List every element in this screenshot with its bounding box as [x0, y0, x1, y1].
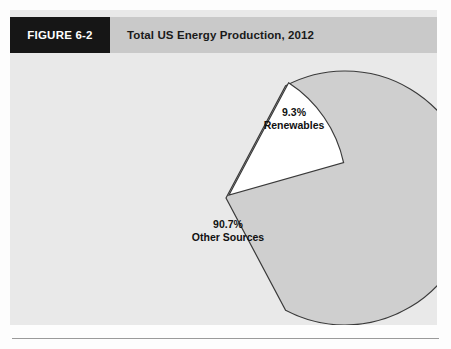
pie-label-renewables: 9.3% Renewables — [242, 106, 346, 132]
figure-titlebar: Total US Energy Production, 2012 — [110, 17, 437, 53]
pie-label-other-sources-percent: 90.7% — [154, 218, 302, 231]
pie-label-other-sources-name: Other Sources — [154, 231, 302, 244]
pie-chart: 9.3% Renewables 90.7% Other Sources — [10, 53, 437, 325]
figure-number-badge: FIGURE 6-2 — [10, 17, 110, 53]
pie-chart-svg — [10, 53, 437, 325]
pie-label-renewables-percent: 9.3% — [242, 106, 346, 119]
figure-header: FIGURE 6-2 Total US Energy Production, 2… — [10, 17, 437, 53]
figure-number-label: FIGURE 6-2 — [27, 29, 92, 41]
figure-bottom-rule — [12, 338, 439, 339]
pie-label-renewables-name: Renewables — [242, 119, 346, 132]
figure-container: FIGURE 6-2 Total US Energy Production, 2… — [0, 0, 451, 349]
pie-label-other-sources: 90.7% Other Sources — [154, 218, 302, 244]
figure-title: Total US Energy Production, 2012 — [127, 29, 314, 41]
